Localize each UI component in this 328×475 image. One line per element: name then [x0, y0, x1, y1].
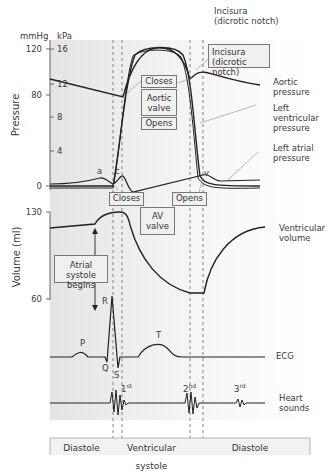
tick-130: 130: [18, 207, 42, 217]
sound-1-label: 1st: [121, 381, 132, 394]
unit-mmhg-label: mmHg: [20, 31, 48, 41]
ecg-s-label: S: [114, 370, 119, 380]
tick-16: 16: [57, 44, 68, 54]
aortic-opens-box: Opens: [141, 117, 177, 130]
tick-12: 12: [57, 79, 68, 89]
tick-60: 60: [18, 294, 42, 304]
pressure-axis-label: Pressure: [11, 94, 21, 137]
phase-diastole-1: Diastole: [50, 439, 113, 457]
aortic-closes-box: Closes: [141, 75, 177, 88]
wave-c-label: c: [115, 166, 120, 176]
aortic-pressure-label: Aorticpressure: [273, 77, 310, 97]
aortic-valve-box: Aorticvalve: [141, 89, 177, 116]
ventricular-volume-label: Ventricularvolume: [279, 223, 325, 243]
unit-kpa-label: kPa: [57, 31, 72, 41]
ecg-label: ECG: [276, 351, 294, 361]
wave-v-label: v: [204, 168, 209, 178]
la-pressure-label: Left atrialpressure: [273, 143, 314, 163]
av-opens-box: Opens: [172, 192, 207, 206]
ecg-r-label: R: [102, 296, 108, 306]
av-valve-box: AVvalve: [140, 207, 175, 235]
phase-ventricular-systole: Ventricular systole: [113, 439, 190, 457]
sound-2-label: 2nd: [183, 381, 196, 394]
heart-sounds-label: Heartsounds: [279, 393, 309, 413]
ecg-t-label: T: [156, 330, 161, 340]
volume-axis-label: Volume (ml): [12, 227, 22, 288]
tick-4: 4: [57, 146, 62, 156]
av-closes-box: Closes: [109, 192, 144, 206]
phase-diastole-2: Diastole: [190, 439, 310, 457]
incisura-box: Incisura(dicrotic notch): [208, 44, 270, 68]
tick-80: 80: [18, 90, 42, 100]
ecg-p-label: P: [80, 338, 85, 348]
plot-background: [50, 40, 310, 420]
incisura-top-label: Incisura(dicrotic notch): [214, 6, 279, 26]
sound-3-label: 3rd: [234, 381, 246, 394]
atrial-systole-box: Atrial systolebegins: [54, 255, 108, 283]
lv-pressure-label: Leftventricularpressure: [273, 103, 319, 133]
tick-0: 0: [18, 181, 42, 191]
wave-a-label: a: [97, 166, 102, 176]
tick-8: 8: [57, 112, 62, 122]
ecg-q-label: Q: [102, 363, 109, 373]
tick-120: 120: [18, 44, 42, 54]
